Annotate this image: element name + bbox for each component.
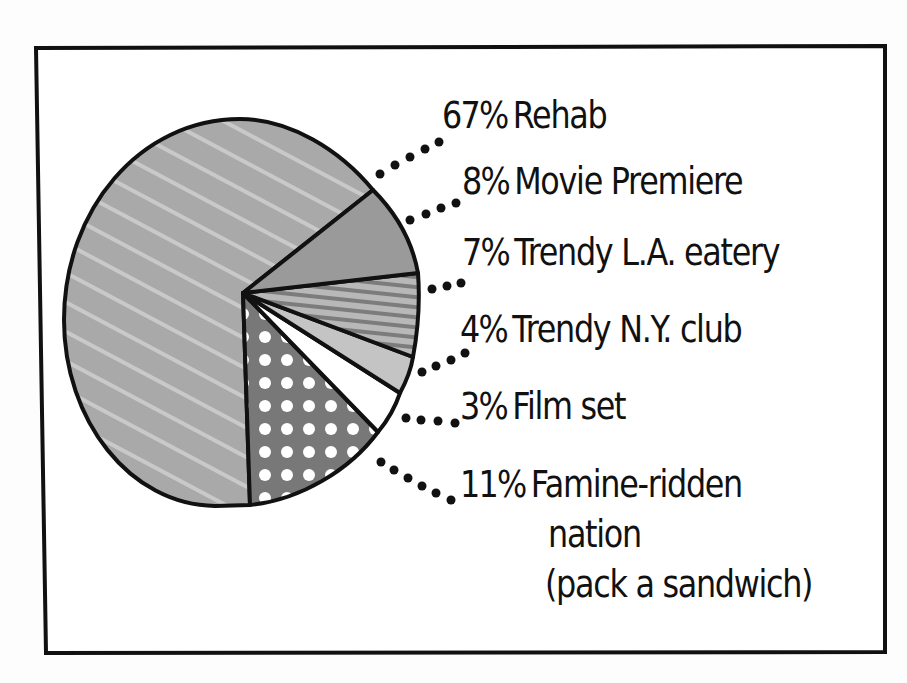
label-famine-text: Famine-ridden — [531, 463, 742, 506]
label-la-eatery: 7%Trendy L.A. eatery — [462, 233, 779, 273]
label-ny-club-text: Trendy N.Y. club — [512, 308, 741, 351]
label-film-set-pct: 3% — [460, 385, 507, 428]
label-ny-club: 4%Trendy N.Y. club — [460, 310, 741, 350]
label-film-set: 3%Film set — [460, 387, 625, 427]
label-movie-premiere: 8%Movie Premiere — [462, 162, 742, 202]
label-movie-premiere-pct: 8% — [462, 160, 509, 203]
label-famine-line3: (pack a sandwich) — [545, 565, 812, 605]
label-famine: 11%Famine-ridden — [460, 465, 742, 505]
label-famine-line2: nation — [548, 515, 641, 555]
label-rehab-pct: 67% — [442, 94, 508, 137]
label-la-eatery-pct: 7% — [462, 231, 509, 274]
label-rehab: 67%Rehab — [442, 96, 606, 136]
label-famine-pct: 11% — [460, 463, 526, 506]
label-film-set-text: Film set — [512, 385, 625, 428]
label-ny-club-pct: 4% — [460, 308, 507, 351]
label-movie-premiere-text: Movie Premiere — [514, 160, 742, 203]
label-rehab-text: Rehab — [513, 94, 607, 137]
label-la-eatery-text: Trendy L.A. eatery — [514, 231, 779, 274]
